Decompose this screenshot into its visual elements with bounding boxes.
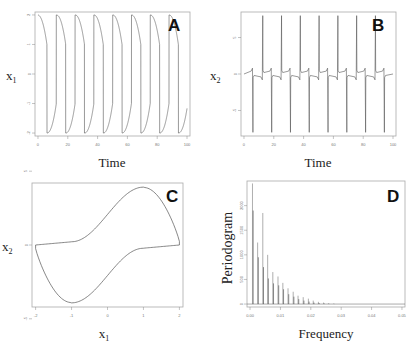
panel-a-ytick-label: 0 (27, 72, 32, 75)
panel-a-letter: A (168, 16, 180, 35)
panel-b-ytick-label: -5 (233, 108, 238, 112)
panel-d: 0.000.010.020.030.040.050500100015002000… (220, 181, 407, 341)
panel-c-xlabel: x1 (99, 326, 110, 343)
panel-b-xtick-label: 20 (272, 142, 277, 147)
panel-d-ytick-label: 1000 (239, 250, 244, 260)
panel-c: -2-1012-505 C x2 x1 (2, 169, 183, 343)
panel-d-xtick-label: 0.01 (277, 313, 286, 318)
panel-c-curve (36, 187, 180, 303)
panel-c-xtick-label: 1 (142, 313, 145, 318)
panel-c-letter: C (166, 187, 178, 206)
figure: 020406080100-2-1012 A x1 Time 0204060801… (0, 0, 411, 344)
panel-d-bars (247, 183, 405, 304)
panel-c-xtick-label: 2 (178, 313, 181, 318)
panel-b-letter: B (372, 16, 384, 35)
panel-d-xtick-label: 0.05 (398, 313, 407, 318)
panel-b-ylabel: x2 (210, 68, 221, 85)
panel-a-ytick-label: -1 (27, 101, 32, 105)
panel-d-letter: D (387, 187, 399, 206)
panel-c-xtick-label: 0 (106, 313, 109, 318)
panel-a-ytick-label: 1 (27, 43, 32, 46)
panel-d-xtick-label: 0.03 (337, 313, 346, 318)
panel-d-xtick-label: 0.00 (246, 313, 255, 318)
panel-b-xtick-label: 100 (390, 142, 397, 147)
panel-a-axes: 020406080100-2-1012 (27, 13, 192, 147)
panel-b-xlabel: Time (305, 155, 332, 170)
panel-a-xtick-label: 60 (125, 142, 130, 147)
panel-a-ytick-label: 2 (27, 13, 32, 16)
panel-d-frame (247, 181, 405, 307)
panel-d-xtick-label: 0.04 (368, 313, 377, 318)
panel-a-xtick-label: 20 (66, 142, 71, 147)
panel-b-xtick-label: 60 (331, 142, 336, 147)
panel-b-axes: 020406080100-505 (233, 36, 398, 147)
panel-c-axes: -2-1012-505 (24, 169, 182, 320)
panel-a: 020406080100-2-1012 A x1 Time (6, 12, 191, 170)
panel-b-xtick-label: 80 (361, 142, 366, 147)
panel-b: 020406080100-505 B x2 Time (210, 12, 397, 170)
panel-d-xtick-label: 0.02 (307, 313, 316, 318)
panel-c-ytick-label: 5 (24, 169, 29, 172)
panel-c-xtick-label: -2 (34, 313, 38, 318)
panel-c-ylabel: x2 (2, 239, 13, 256)
panel-d-ytick-label: 0 (239, 302, 244, 305)
panel-d-ylabel: Periodogram (220, 212, 235, 284)
panel-a-ytick-label: -2 (27, 130, 32, 134)
panel-b-xtick-label: 0 (243, 142, 246, 147)
panel-d-ytick-label: 500 (239, 275, 244, 282)
panel-c-ytick-label: 0 (24, 243, 29, 246)
panel-a-xtick-label: 0 (37, 142, 40, 147)
panel-a-xlabel: Time (99, 155, 126, 170)
panel-a-xtick-label: 40 (95, 142, 100, 147)
panel-b-ytick-label: 5 (233, 36, 238, 39)
panel-d-ytick-label: 1500 (239, 225, 244, 235)
panel-a-ylabel: x1 (6, 68, 17, 85)
panel-c-xtick-label: -1 (70, 313, 74, 318)
panel-d-ytick-label: 2000 (239, 200, 244, 210)
panel-d-xlabel: Frequency (299, 326, 354, 341)
panel-a-curve (38, 15, 187, 133)
panel-b-curve (244, 16, 393, 133)
panel-c-frame (32, 183, 183, 307)
panel-a-xtick-label: 80 (155, 142, 160, 147)
panel-b-xtick-label: 40 (301, 142, 306, 147)
panel-b-ytick-label: 0 (233, 72, 238, 75)
panel-a-xtick-label: 100 (184, 142, 191, 147)
panel-c-ytick-label: -5 (24, 316, 29, 320)
